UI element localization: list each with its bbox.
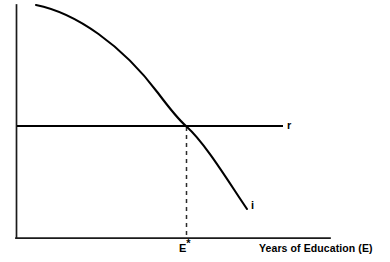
curve-label-i: i bbox=[251, 200, 254, 211]
curve-label-r: r bbox=[287, 120, 291, 131]
x-axis-tick-label-e-star: E* bbox=[179, 243, 191, 254]
marginal-return-curve-i bbox=[36, 5, 247, 209]
e-star-asterisk: * bbox=[186, 237, 190, 249]
education-return-chart: r i E* Years of Education (E) bbox=[0, 0, 390, 262]
chart-canvas bbox=[0, 0, 390, 262]
x-axis-title: Years of Education (E) bbox=[259, 243, 373, 254]
